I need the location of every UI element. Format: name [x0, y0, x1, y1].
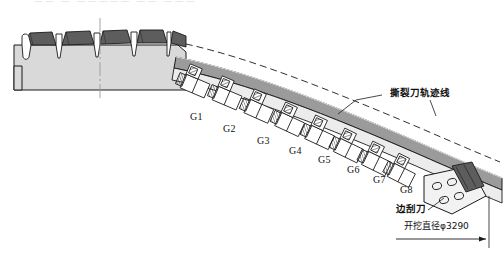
cutter-group-label-g8: G8	[400, 185, 413, 195]
side-scraper-label: 边刮刀	[396, 204, 426, 214]
trajectory-leader-2	[430, 100, 436, 116]
cutter-group-label-g4: G4	[289, 146, 302, 156]
cutter-group-label-g1: G1	[190, 112, 203, 122]
trajectory-label: 撕裂刀轨迹线	[390, 88, 450, 98]
cutter-group-label-g5: G5	[318, 155, 331, 165]
diagram-vector	[0, 0, 504, 257]
figure-canvas: —— — ————— —— ———	[0, 0, 504, 257]
cutter-group-label-g7: G7	[373, 175, 386, 185]
cutter-group-label-g3: G3	[257, 136, 270, 146]
toothed-cutter-block	[14, 18, 186, 100]
cutter-group-label-g6: G6	[347, 165, 360, 175]
excavation-diameter-label: 开挖直径φ3290	[404, 222, 469, 231]
cutter-group-label-g2: G2	[223, 124, 236, 134]
